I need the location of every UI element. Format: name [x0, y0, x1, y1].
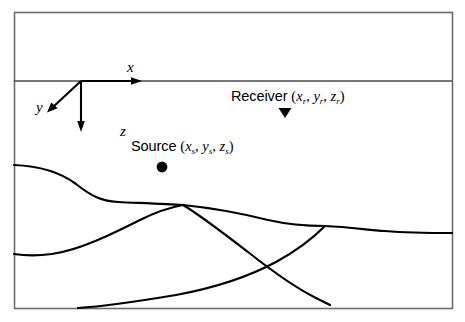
- subsurface-interfaces: [14, 165, 452, 308]
- source-coordinates: (xs, ys, zs): [180, 138, 233, 154]
- source-sub-x: s: [192, 146, 196, 156]
- receiver-sep-2: ,: [323, 88, 330, 104]
- y-axis-line: [53, 81, 81, 107]
- interface-upper-right: [183, 205, 452, 233]
- z-axis-label: z: [120, 124, 126, 139]
- source-name-text: Source: [131, 138, 180, 154]
- coordinate-axes: [53, 81, 134, 124]
- source-coord-y: y: [202, 138, 208, 154]
- receiver-coordinates: (xr, yr, zr): [291, 88, 344, 104]
- receiver-marker-triangle: [279, 108, 292, 118]
- interface-upper: [14, 165, 183, 205]
- source-marker-dot: [157, 162, 168, 173]
- z-axis-arrowhead: [77, 121, 85, 132]
- receiver-coord-x: x: [296, 88, 302, 104]
- axis-arrowheads: [47, 77, 142, 132]
- receiver-sub-y: r: [320, 96, 324, 106]
- source-sub-y: s: [209, 146, 213, 156]
- source-sep-2: ,: [212, 138, 219, 154]
- source-sub-z: s: [225, 146, 229, 156]
- source-coord-x: x: [185, 138, 191, 154]
- source-label: Source (xs, ys, zs): [131, 139, 234, 154]
- interface-lower: [78, 226, 325, 308]
- y-axis-label: y: [36, 100, 43, 115]
- fault-lower-left: [183, 205, 330, 305]
- figure-border: [15, 13, 453, 309]
- interface-middle: [14, 205, 183, 256]
- receiver-close-paren: ): [340, 88, 345, 104]
- x-axis-arrowhead: [131, 77, 142, 85]
- diagram-canvas: [0, 0, 465, 322]
- seismic-geometry-figure: x y z Receiver (xr, yr, zr) Source (xs, …: [0, 0, 465, 322]
- source-close-paren: ): [229, 138, 234, 154]
- x-axis-label: x: [127, 60, 134, 75]
- receiver-name-text: Receiver: [231, 88, 291, 104]
- receiver-label: Receiver (xr, yr, zr): [231, 89, 345, 104]
- receiver-sub-z: r: [336, 96, 340, 106]
- receiver-coord-y: y: [313, 88, 319, 104]
- receiver-sub-x: r: [303, 96, 307, 106]
